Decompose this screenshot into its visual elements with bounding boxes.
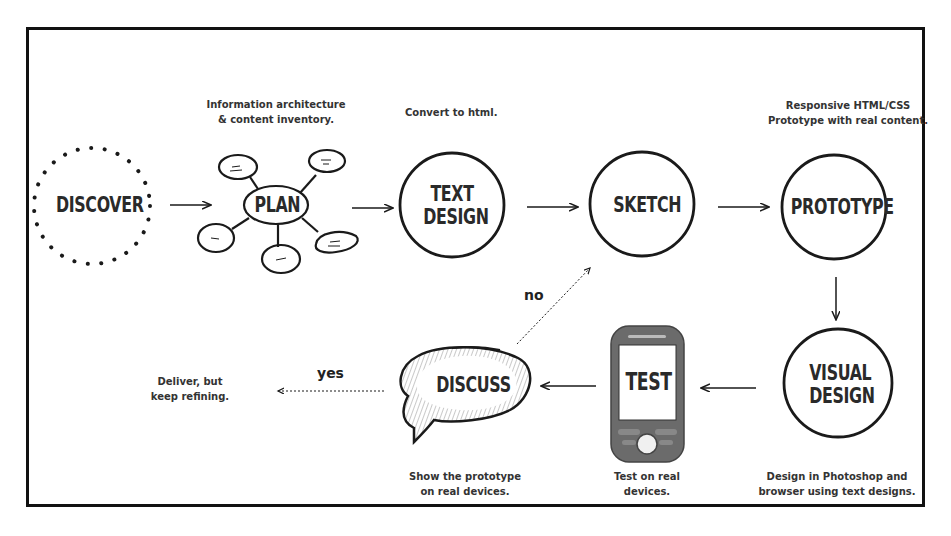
test-node-label: TEST <box>625 370 668 395</box>
arrow-discuss-to-sketch-no <box>517 268 590 344</box>
test-caption: Test on real devices. <box>602 470 692 499</box>
deliver-caption: Deliver, but keep refining. <box>140 375 240 404</box>
visual-design-caption: Design in Photoshop and browser using te… <box>752 470 922 499</box>
visual-design-node-label-line2: DESIGN <box>809 384 867 407</box>
test-caption-line1: Test on real <box>602 470 692 485</box>
discover-node-label: DISCOVER <box>56 193 128 216</box>
discuss-caption-line1: Show the prototype <box>400 470 530 485</box>
prototype-node-label: PROTOTYPE <box>791 195 877 218</box>
plan-caption-line1: Information architecture <box>196 98 356 113</box>
prototype-caption-line2: Prototype with real content. <box>758 114 938 129</box>
text-design-caption-line1: Convert to html. <box>405 106 525 121</box>
deliver-caption-line1: Deliver, but <box>140 375 240 390</box>
plan-caption: Information architecture & content inven… <box>196 98 356 127</box>
edge-label-no: no <box>524 287 544 303</box>
edge-label-yes: yes <box>317 365 344 381</box>
visual-design-caption-line2: browser using text designs. <box>752 485 922 500</box>
discuss-caption-line2: on real devices. <box>400 485 530 500</box>
visual-design-caption-line1: Design in Photoshop and <box>752 470 922 485</box>
sketch-node-label: SKETCH <box>613 193 671 216</box>
visual-design-node-label-line1: VISUAL <box>809 361 867 384</box>
text-design-caption: Convert to html. <box>405 106 525 121</box>
deliver-caption-line2: keep refining. <box>140 390 240 405</box>
text-design-node-label-line1: TEXT <box>423 182 481 205</box>
plan-caption-line2: & content inventory. <box>196 113 356 128</box>
diagram-canvas <box>0 0 951 536</box>
discuss-node-label: DISCUSS <box>436 373 494 396</box>
discuss-caption: Show the prototype on real devices. <box>400 470 530 499</box>
test-caption-line2: devices. <box>602 485 692 500</box>
prototype-caption: Responsive HTML/CSS Prototype with real … <box>758 99 938 128</box>
prototype-caption-line1: Responsive HTML/CSS <box>758 99 938 114</box>
plan-node-label: PLAN <box>254 193 297 216</box>
text-design-node-label-line2: DESIGN <box>423 205 481 228</box>
